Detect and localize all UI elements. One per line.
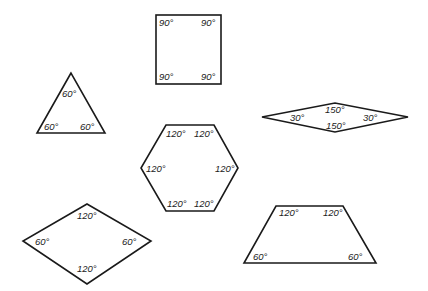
thin-rhombus-angle-right: 30° [363,112,378,123]
thin-rhombus-angle-bottom: 150° [326,120,346,131]
hexagon-angle-top-left: 120° [166,128,186,139]
polygon-angles-diagram: 90° 90° 90° 90° 60° 60° 60° 30° 150° 150… [0,0,428,291]
triangle-angle-bottom-left: 60° [44,121,59,132]
diamond-angle-top: 120° [77,210,97,221]
diamond-angle-right: 60° [122,236,137,247]
diamond-angle-left: 60° [35,236,50,247]
hexagon-angle-left: 120° [146,163,166,174]
trapezoid-angle-bottom-left: 60° [253,251,268,262]
hexagon-angle-right: 120° [215,163,235,174]
triangle-shape: 60° 60° 60° [37,73,105,133]
square-angle-bottom-right: 90° [201,71,216,82]
hexagon-angle-bottom-right: 120° [194,198,214,209]
thin-rhombus-angle-left: 30° [290,112,305,123]
square-angle-top-left: 90° [159,17,174,28]
thin-rhombus-angle-top: 150° [325,104,345,115]
trapezoid-angle-bottom-right: 60° [348,251,363,262]
hexagon-shape: 120° 120° 120° 120° 120° 120° [141,125,238,211]
trapezoid-angle-top-right: 120° [323,207,343,218]
square-shape: 90° 90° 90° 90° [156,15,221,84]
trapezoid-angle-top-left: 120° [279,207,299,218]
diamond-shape: 120° 60° 60° 120° [23,204,151,284]
square-angle-top-right: 90° [201,17,216,28]
thin-rhombus-shape: 30° 150° 150° 30° [262,103,408,132]
triangle-angle-bottom-right: 60° [80,121,95,132]
square-angle-bottom-left: 90° [159,71,174,82]
trapezoid-shape: 120° 120° 60° 60° [244,206,376,263]
hexagon-angle-top-right: 120° [194,128,214,139]
diamond-angle-bottom: 120° [77,263,97,274]
triangle-angle-top: 60° [62,88,77,99]
hexagon-angle-bottom-left: 120° [167,198,187,209]
